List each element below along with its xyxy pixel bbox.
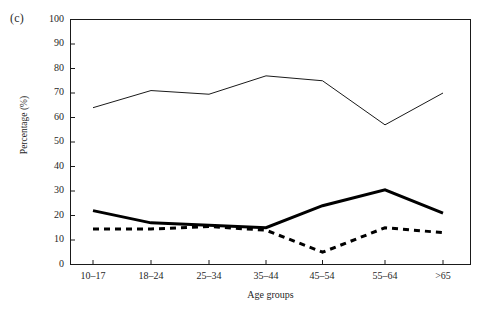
y-tick-marks xyxy=(71,20,76,265)
x-tick-marks xyxy=(93,260,443,265)
series-bold-solid-line xyxy=(93,190,443,228)
figure-panel-c: (c) Percentage (%) Age groups 100 90 80 … xyxy=(0,0,491,313)
series-thin-solid-line xyxy=(93,76,443,125)
series-dashed-line xyxy=(93,227,443,253)
plot-canvas xyxy=(0,0,491,313)
series-layer xyxy=(93,76,443,252)
